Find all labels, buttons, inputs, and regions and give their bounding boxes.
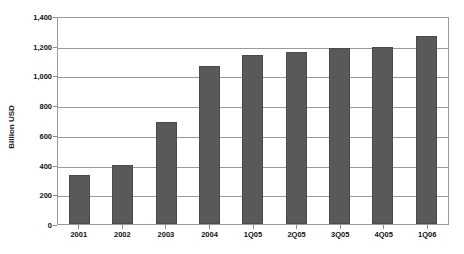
- bar: [286, 52, 307, 224]
- bar: [69, 175, 90, 224]
- x-axis-tick-mark: [78, 225, 79, 229]
- bar-chart: Billion USD 02004006008001,0001,2001,400…: [0, 0, 464, 254]
- x-axis-tick-slot: [362, 225, 406, 229]
- x-axis-tick-slot: [275, 225, 319, 229]
- bar-slot: [231, 18, 274, 224]
- bar-slot: [405, 18, 448, 224]
- x-axis-tick-mark: [165, 225, 166, 229]
- y-axis-tick-label: 1,400: [18, 13, 52, 22]
- x-axis-tick-label: 4Q05: [362, 230, 406, 244]
- bars-layer: [58, 18, 448, 224]
- x-axis-tick-mark-group: [57, 225, 449, 229]
- y-axis-tick-label: 600: [18, 131, 52, 140]
- x-axis-tick-mark: [340, 225, 341, 229]
- bar-slot: [275, 18, 318, 224]
- bar-slot: [145, 18, 188, 224]
- x-axis-tick-slot: [406, 225, 450, 229]
- x-axis-tick-slot: [101, 225, 145, 229]
- bar: [242, 55, 263, 224]
- x-axis-tick-mark: [209, 225, 210, 229]
- bar-slot: [101, 18, 144, 224]
- x-axis-tick-mark: [296, 225, 297, 229]
- x-axis-tick-slot: [318, 225, 362, 229]
- x-axis-tick-label: 1Q06: [406, 230, 450, 244]
- y-axis-tick-label: 800: [18, 102, 52, 111]
- x-axis-tick-slot: [57, 225, 101, 229]
- x-axis-tick-label: 3Q05: [318, 230, 362, 244]
- x-axis-tick-mark: [253, 225, 254, 229]
- x-axis-tick-slot: [188, 225, 232, 229]
- y-axis-tick-label: 400: [18, 161, 52, 170]
- x-axis-tick-slot: [231, 225, 275, 229]
- bar: [156, 122, 177, 224]
- x-axis-tick-label-group: 20012002200320041Q052Q053Q054Q051Q06: [57, 230, 449, 244]
- x-axis-tick-slot: [144, 225, 188, 229]
- x-axis-tick-label: 2001: [57, 230, 101, 244]
- bar: [416, 36, 437, 224]
- x-axis-tick-label: 2002: [101, 230, 145, 244]
- y-axis-tick-label: 200: [18, 191, 52, 200]
- bar: [329, 48, 350, 224]
- x-axis-tick-label: 2003: [144, 230, 188, 244]
- x-axis-tick-label: 2Q05: [275, 230, 319, 244]
- x-axis-tick-mark: [383, 225, 384, 229]
- bar: [372, 47, 393, 224]
- bar-slot: [318, 18, 361, 224]
- bar-slot: [361, 18, 404, 224]
- x-axis-tick-mark: [122, 225, 123, 229]
- y-axis-tick-label: 0: [18, 221, 52, 230]
- bar-slot: [58, 18, 101, 224]
- plot-area: [57, 17, 449, 225]
- bar: [112, 165, 133, 224]
- y-axis-tick-label: 1,200: [18, 42, 52, 51]
- bar-slot: [188, 18, 231, 224]
- y-axis-tick-label-group: 02004006008001,0001,2001,400: [18, 11, 52, 231]
- x-axis-tick-label: 2004: [188, 230, 232, 244]
- y-axis-tick-label: 1,000: [18, 72, 52, 81]
- x-axis-tick-label: 1Q05: [231, 230, 275, 244]
- bar: [199, 66, 220, 224]
- x-axis-tick-mark: [427, 225, 428, 229]
